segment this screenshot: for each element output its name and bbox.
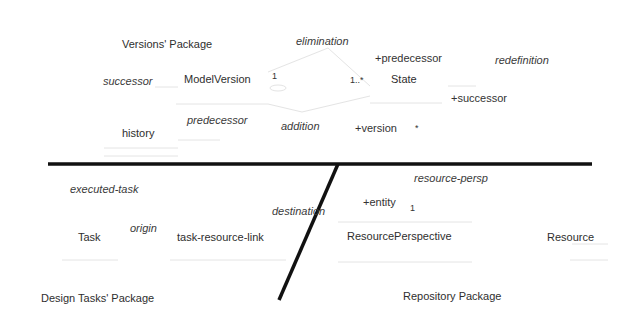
resource-persp-association-label: resource-persp	[414, 172, 488, 185]
successor-association-label: successor	[103, 75, 153, 88]
task-class[interactable]: Task	[78, 231, 101, 244]
task-resource-link-class[interactable]: task-resource-link	[177, 231, 264, 244]
state-class[interactable]: State	[391, 73, 417, 86]
destination-association-label: destination	[272, 205, 325, 218]
diagram-canvas	[0, 0, 636, 325]
resource-class[interactable]: Resource	[547, 231, 594, 244]
history-class[interactable]: history	[122, 127, 154, 140]
predecessor-role-label: +predecessor	[375, 52, 442, 65]
diagonal-divider	[279, 164, 338, 300]
resource-perspective-class[interactable]: ResourcePerspective	[347, 230, 452, 243]
elimination-association-label: elimination	[296, 35, 349, 48]
versions-package-title: Versions' Package	[122, 38, 212, 51]
model-version-multiplicity: 1	[272, 70, 277, 83]
entity-role-label: +entity	[363, 196, 396, 209]
executed-task-association-label: executed-task	[70, 183, 138, 196]
repository-package-title: Repository Package	[403, 290, 501, 303]
predecessor-association-label: predecessor	[187, 114, 248, 127]
origin-association-label: origin	[130, 222, 157, 235]
successor-role-label: +successor	[451, 92, 507, 105]
entity-multiplicity: 1	[410, 202, 415, 215]
redefinition-association-label: redefinition	[495, 54, 549, 67]
version-role-label: +version	[355, 122, 397, 135]
model-version-class[interactable]: ModelVersion	[184, 73, 251, 86]
version-multiplicity: *	[415, 122, 419, 135]
state-multiplicity: 1..*	[350, 74, 364, 87]
addition-association-label: addition	[281, 120, 320, 133]
design-tasks-package-title: Design Tasks' Package	[41, 292, 154, 305]
